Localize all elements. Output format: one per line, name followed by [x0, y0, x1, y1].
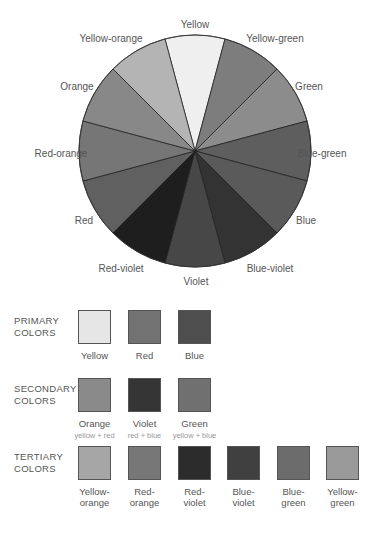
swatch-mix-green: yellow + blue: [160, 431, 230, 440]
swatch-label-yellow-green: Yellow-green: [313, 486, 373, 508]
group-title-tertiary: TERTIARYCOLORS: [14, 451, 63, 475]
swatch-label-line1: Green: [165, 418, 225, 429]
swatch-orange: [78, 378, 111, 412]
wheel-label-violet: Violet: [184, 276, 209, 287]
wheel-label-yellow-green: Yellow-green: [246, 33, 303, 44]
group-title-line2: COLORS: [14, 395, 77, 407]
group-title-line1: PRIMARY: [14, 315, 59, 327]
wheel-label-blue: Blue: [296, 215, 316, 226]
swatch-label-line1: Blue: [165, 350, 225, 361]
group-title-line1: TERTIARY: [14, 451, 63, 463]
wheel-label-red-orange: Red-orange: [35, 148, 88, 159]
swatch-blue-violet: [227, 446, 260, 480]
group-title-secondary: SECONDARYCOLORS: [14, 383, 77, 407]
wheel-label-orange: Orange: [60, 81, 93, 92]
swatch-green: [178, 378, 211, 412]
swatch-label-line1: Yellow-: [313, 486, 373, 497]
group-title-line2: COLORS: [14, 327, 59, 339]
swatch-violet: [128, 378, 161, 412]
group-title-primary: PRIMARYCOLORS: [14, 315, 59, 339]
wheel-label-yellow-orange: Yellow-orange: [79, 33, 142, 44]
swatch-yellow-green: [326, 446, 359, 480]
wheel-label-green: Green: [295, 81, 323, 92]
wheel-label-red: Red: [75, 215, 93, 226]
swatch-red-violet: [178, 446, 211, 480]
swatch-yellow: [78, 310, 111, 344]
wheel-label-blue-violet: Blue-violet: [247, 263, 294, 274]
group-title-line2: COLORS: [14, 463, 63, 475]
wheel-label-red-violet: Red-violet: [98, 263, 143, 274]
swatch-blue: [178, 310, 211, 344]
wheel-label-yellow: Yellow: [181, 19, 210, 30]
swatch-red-orange: [128, 446, 161, 480]
swatch-label-line2: green: [313, 497, 373, 508]
swatch-label-blue: Blue: [165, 350, 225, 361]
group-title-line1: SECONDARY: [14, 383, 77, 395]
swatch-label-green: Green: [165, 418, 225, 429]
swatch-blue-green: [277, 446, 310, 480]
swatch-yellow-orange: [78, 446, 111, 480]
wheel-label-blue-green: Blue-green: [298, 148, 347, 159]
swatch-red: [128, 310, 161, 344]
